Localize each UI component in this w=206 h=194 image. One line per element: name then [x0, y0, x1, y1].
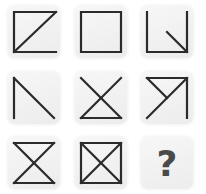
- square-icon: [75, 6, 127, 58]
- question-mark-icon: ?: [141, 137, 193, 189]
- hourglass-icon: [8, 137, 60, 189]
- open-box-diagonal-icon: [8, 6, 60, 58]
- u-shape-diagonal-icon: [141, 6, 193, 58]
- cell-r1c2: [75, 6, 127, 58]
- left-side-diagonal-icon: [8, 72, 60, 124]
- cell-r2c3: [141, 72, 193, 124]
- top-right-diagonals-icon: [141, 72, 193, 124]
- cell-r3c1: [8, 137, 60, 189]
- puzzle-grid: ?: [0, 0, 206, 194]
- cell-r2c2: [75, 72, 127, 124]
- cell-r3c3: ?: [141, 137, 193, 189]
- square-with-x-icon: [75, 137, 127, 189]
- cell-r3c2: [75, 137, 127, 189]
- cell-r2c1: [8, 72, 60, 124]
- cell-r1c1: [8, 6, 60, 58]
- x-with-bottom-icon: [75, 72, 127, 124]
- cell-r1c3: [141, 6, 193, 58]
